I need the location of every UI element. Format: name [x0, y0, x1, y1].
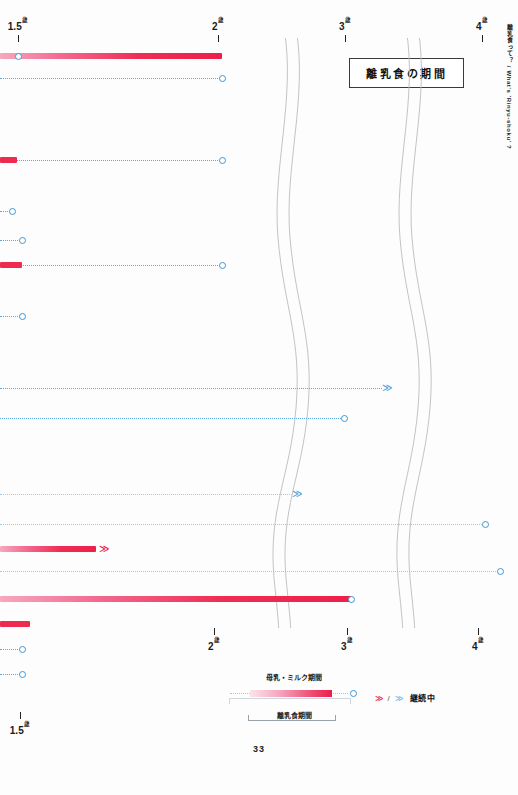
legend-continuing: ≫ / ≫ 継続中 — [375, 692, 435, 703]
continuing-chevron-icon: ≫ — [292, 488, 301, 500]
axis-tick-4: 4歳 — [458, 628, 498, 654]
chart-row — [0, 593, 518, 605]
period-end-circle-icon — [9, 208, 16, 215]
chart-plot: ≫≫≫ — [0, 38, 518, 628]
chart-row — [0, 310, 518, 322]
break-wave-left — [262, 38, 322, 628]
axis-tick-3: 3歳 — [327, 628, 367, 654]
weaning-period-bar — [0, 596, 352, 602]
chart-row — [0, 518, 518, 530]
legend-track — [228, 687, 360, 701]
period-end-circle-icon — [15, 53, 22, 60]
chart-row — [0, 205, 518, 217]
chevron-pink-icon: ≫ — [375, 694, 382, 703]
period-end-circle-icon — [348, 596, 355, 603]
continuing-chevron-icon: ≫ — [382, 382, 391, 394]
chart-row — [0, 72, 518, 84]
period-end-circle-icon — [341, 415, 348, 422]
legend-slash: / — [388, 694, 390, 703]
milk-period-dotted-segment — [10, 160, 222, 161]
period-end-circle-icon — [19, 237, 26, 244]
period-end-circle-icon — [497, 568, 504, 575]
continuing-chevron-icon: ≫ — [99, 543, 108, 555]
period-end-circle-icon — [219, 75, 226, 82]
legend-weaning-label: 離乳食期間 — [228, 710, 360, 720]
legend-bracket-top — [229, 698, 351, 704]
legend-continuing-label: 継続中 — [410, 694, 436, 703]
chart-row — [0, 234, 518, 246]
period-end-circle-icon — [482, 521, 489, 528]
period-end-circle-icon — [219, 157, 226, 164]
chart-row: ≫ — [0, 543, 518, 555]
legend-milk-label: 母乳・ミルク期間 — [228, 672, 360, 682]
chart-row — [0, 259, 518, 271]
legend-endpoint-circle — [350, 690, 357, 697]
weaning-period-bar — [0, 546, 96, 552]
chart-page: 1.5歳2歳3歳4歳 離乳食の期間 離乳食って？ / What's 'Rinyu… — [0, 0, 518, 795]
weaning-period-bar — [0, 262, 22, 268]
break-wave-right — [386, 38, 446, 628]
milk-period-dotted-segment — [0, 78, 222, 79]
page-number: 33 — [0, 744, 518, 754]
legend-periods: 母乳・ミルク期間 離乳食期間 — [228, 672, 360, 720]
chart-row: ≫ — [0, 488, 518, 500]
chart-row: ≫ — [0, 382, 518, 394]
period-end-circle-icon — [219, 262, 226, 269]
milk-period-dotted-segment — [0, 571, 500, 572]
milk-period-dotted-segment — [0, 418, 347, 419]
milk-period-dotted-segment — [0, 388, 382, 389]
chevron-blue-icon: ≫ — [395, 694, 402, 703]
chart-row — [0, 565, 518, 577]
milk-period-dotted-segment — [0, 494, 292, 495]
axis-tick-1.5: 1.5歳 — [0, 712, 40, 738]
weaning-period-bar — [0, 53, 222, 59]
axis-tick-2: 2歳 — [194, 628, 234, 654]
axis-top: 1.5歳2歳3歳4歳 — [0, 16, 518, 38]
chart-row — [0, 50, 518, 62]
chart-row — [0, 154, 518, 166]
milk-period-dotted-segment — [18, 265, 222, 266]
weaning-period-bar — [0, 157, 17, 163]
legend-pink-bar — [250, 690, 332, 697]
milk-period-dotted-segment — [0, 524, 488, 525]
period-end-circle-icon — [19, 313, 26, 320]
chart-row — [0, 412, 518, 424]
weaning-period-bar — [0, 621, 30, 627]
